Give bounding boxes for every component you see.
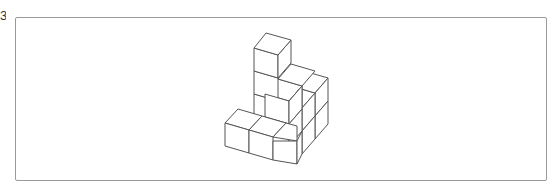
cube-stack-figure	[0, 0, 557, 192]
